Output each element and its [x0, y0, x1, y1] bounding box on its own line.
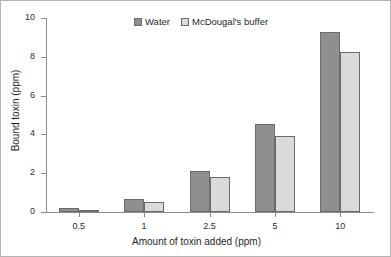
bar-mcdougals-buffer-1 — [144, 202, 164, 212]
x-tick-5 — [275, 212, 276, 217]
bar-mcdougals-buffer-0.5 — [79, 210, 99, 212]
x-tick-label-1: 1 — [114, 221, 174, 231]
bar-water-1 — [124, 199, 144, 212]
x-tick-0.5 — [79, 212, 80, 217]
bar-mcdougals-buffer-2.5 — [210, 177, 230, 212]
bar-water-2.5 — [190, 171, 210, 212]
y-axis-label: Bound toxin (ppm) — [10, 36, 21, 186]
x-tick-label-5: 5 — [245, 221, 305, 231]
x-tick-2.5 — [210, 212, 211, 217]
bar-water-10 — [320, 32, 340, 212]
plot-area — [46, 18, 373, 212]
x-tick-label-0.5: 0.5 — [49, 221, 109, 231]
y-tick-label-10: 10 — [5, 13, 35, 22]
bar-water-5 — [255, 124, 275, 212]
x-tick-1 — [144, 212, 145, 217]
bar-chart-figure: Water McDougal's buffer 0246810 0.512.55… — [0, 0, 391, 257]
bar-mcdougals-buffer-5 — [275, 136, 295, 212]
y-tick-label-0: 0 — [5, 207, 35, 216]
bar-mcdougals-buffer-10 — [340, 52, 360, 212]
x-tick-10 — [340, 212, 341, 217]
y-tick-0 — [41, 212, 46, 213]
bar-water-0.5 — [59, 208, 79, 212]
x-tick-label-2.5: 2.5 — [180, 221, 240, 231]
x-axis-label: Amount of toxin added (ppm) — [1, 236, 391, 247]
x-tick-label-10: 10 — [310, 221, 370, 231]
